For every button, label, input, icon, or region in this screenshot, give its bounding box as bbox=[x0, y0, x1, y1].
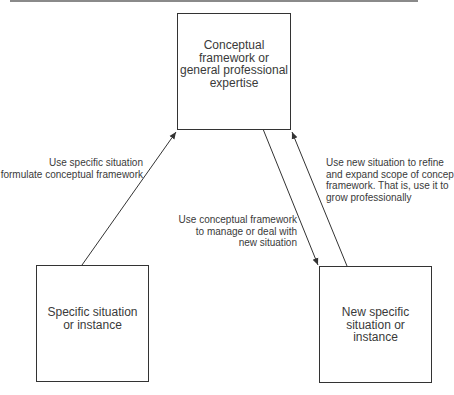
edge-label-formulate: Use specific situation formulate concept… bbox=[1, 157, 143, 180]
edge-label-manage: Use conceptual framework to manage or de… bbox=[179, 214, 297, 249]
node-text-line: Specific situation bbox=[37, 306, 148, 319]
edge-label-line: Use new situation to refine bbox=[326, 157, 454, 169]
edge-label-line: framework. That is, use it to bbox=[326, 180, 454, 192]
node-text-line: Conceptual bbox=[178, 39, 290, 52]
edge-label-line: Use specific situation bbox=[1, 157, 143, 169]
node-text-line: or instance bbox=[37, 319, 148, 332]
edge-label-line: grow professionally bbox=[326, 192, 454, 204]
arrow-specific-to-framework bbox=[82, 132, 176, 265]
node-text-line: New specific bbox=[320, 306, 431, 319]
edge-label-line: and expand scope of concep bbox=[326, 169, 454, 181]
node-specific-situation: Specific situation or instance bbox=[36, 265, 149, 382]
node-specific-situation-text: Specific situation or instance bbox=[37, 306, 148, 331]
edge-label-line: formulate conceptual framework bbox=[1, 169, 143, 181]
edge-label-line: new situation bbox=[179, 237, 297, 249]
edge-label-line: Use conceptual framework bbox=[179, 214, 297, 226]
node-conceptual-framework-text: Conceptual framework or general professi… bbox=[178, 39, 290, 89]
node-new-specific-situation-text: New specific situation or instance bbox=[320, 306, 431, 344]
node-text-line: instance bbox=[320, 331, 431, 344]
node-new-specific-situation: New specific situation or instance bbox=[319, 266, 432, 383]
edge-label-refine: Use new situation to refine and expand s… bbox=[326, 157, 454, 203]
node-conceptual-framework: Conceptual framework or general professi… bbox=[177, 13, 291, 130]
node-text-line: expertise bbox=[178, 77, 290, 90]
edge-label-line: to manage or deal with bbox=[179, 226, 297, 238]
node-text-line: general professional bbox=[178, 64, 290, 77]
